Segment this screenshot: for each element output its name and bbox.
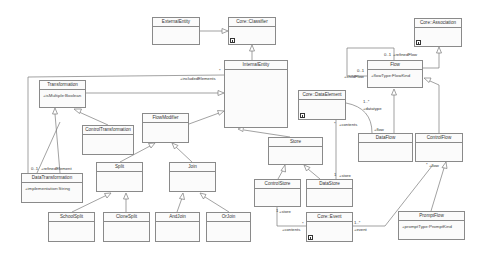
label-cf-flow: +flow <box>429 163 439 168</box>
class-join[interactable]: Join <box>169 162 216 192</box>
label-datatype: +datatype <box>363 106 382 111</box>
class-split[interactable]: Split <box>96 162 143 192</box>
label-store-ds-mult: 1 <box>334 172 336 177</box>
class-control-transformation[interactable]: ControlTransformation <box>82 125 134 155</box>
class-name: ExternalEntity <box>153 18 199 27</box>
label-included-elements-mult: * <box>219 68 221 73</box>
label-store-ds: +store <box>339 173 351 178</box>
class-name: ControlTransformation <box>83 126 133 135</box>
label-store-cs-mult: 1 <box>276 208 278 213</box>
class-core-association[interactable]: Core::Association <box>414 18 462 47</box>
class-attribute: +promptType:PromptKind <box>399 221 464 230</box>
class-store[interactable]: Store <box>268 137 323 165</box>
class-name: Core::Association <box>415 19 461 28</box>
class-name: DataFlow <box>359 134 412 143</box>
library-icon <box>300 113 305 118</box>
class-name: Core::DataElement <box>299 91 345 100</box>
class-external-entity[interactable]: ExternalEntity <box>152 17 200 45</box>
label-event: +event <box>354 227 367 232</box>
class-name: DataTransformation <box>22 174 82 183</box>
library-icon <box>308 235 313 240</box>
label-datatype-mult: 1..* <box>363 99 369 104</box>
class-name: FlowModifier <box>143 114 188 123</box>
class-data-flow[interactable]: DataFlow <box>358 133 413 162</box>
class-attribute: +isMultiple:Boolean <box>40 90 85 99</box>
class-or-join[interactable]: OrJoin <box>206 212 251 242</box>
class-name: Store <box>269 138 322 147</box>
class-flow[interactable]: Flow +flowType:FlowKind <box>367 60 423 88</box>
class-name: Core::Classifier <box>229 18 275 27</box>
label-flow-role: +flow <box>374 127 384 132</box>
class-name: OrJoin <box>207 213 250 222</box>
class-data-store[interactable]: DataStore <box>306 179 353 207</box>
class-name: AndJoin <box>156 213 199 222</box>
label-refined-element-mult: 0..1 <box>31 166 38 171</box>
label-cf-flow-mult: * <box>426 162 428 167</box>
class-name: Core::Event <box>307 213 352 222</box>
label-refined-element: +refinedElement <box>41 166 72 171</box>
class-name: ControlStore <box>255 180 300 189</box>
label-refined-flow: +refinedFlow <box>393 52 417 57</box>
class-name: PromptFlow <box>399 212 464 221</box>
label-refined-flow-mult: 0..1 <box>384 52 391 57</box>
class-control-flow[interactable]: ControlFlow <box>415 133 463 162</box>
class-data-transformation[interactable]: DataTransformation +implementation:Strin… <box>21 173 83 203</box>
class-attribute: +implementation:String <box>22 183 82 192</box>
class-transformation[interactable]: Transformation +isMultiple:Boolean <box>39 80 86 108</box>
label-included-elements: +includedElements <box>180 76 216 81</box>
class-name: CloneSplit <box>104 213 149 222</box>
class-and-join[interactable]: AndJoin <box>155 212 200 242</box>
label-child-flow: +childFlow <box>344 74 364 79</box>
label-child-flow-mult: 0..1 <box>357 68 364 73</box>
class-name: Transformation <box>40 81 85 90</box>
label-contents-de-mult: * <box>334 121 336 126</box>
label-contents-ev-mult: * <box>302 221 304 226</box>
class-core-data-element[interactable]: Core::DataElement <box>298 90 346 120</box>
class-name: ControlFlow <box>416 134 462 143</box>
class-name: Flow <box>368 61 422 70</box>
class-prompt-flow[interactable]: PromptFlow +promptType:PromptKind <box>398 211 465 240</box>
class-attribute: +flowType:FlowKind <box>368 70 422 79</box>
class-name: SchoolSplit <box>49 213 94 222</box>
class-name: Join <box>170 163 215 172</box>
class-core-event[interactable]: Core::Event <box>306 212 353 242</box>
class-name: DataStore <box>307 180 352 189</box>
class-internal-entity[interactable]: InternalEntity <box>224 60 288 128</box>
label-contents-ev: +contents <box>282 227 300 232</box>
class-flow-modifier[interactable]: FlowModifier <box>142 113 189 143</box>
library-icon <box>416 40 421 45</box>
class-clone-split[interactable]: CloneSplit <box>103 212 150 242</box>
class-control-store[interactable]: ControlStore <box>254 179 301 207</box>
class-school-split[interactable]: SchoolSplit <box>48 212 95 242</box>
class-core-classifier[interactable]: Core::Classifier <box>228 17 276 45</box>
class-name: Split <box>97 163 142 172</box>
label-store-cs: +store <box>279 209 291 214</box>
library-icon <box>230 38 235 43</box>
class-name: InternalEntity <box>225 61 287 70</box>
label-contents-de: +contents <box>339 122 357 127</box>
label-event-mult: 1..* <box>354 220 360 225</box>
